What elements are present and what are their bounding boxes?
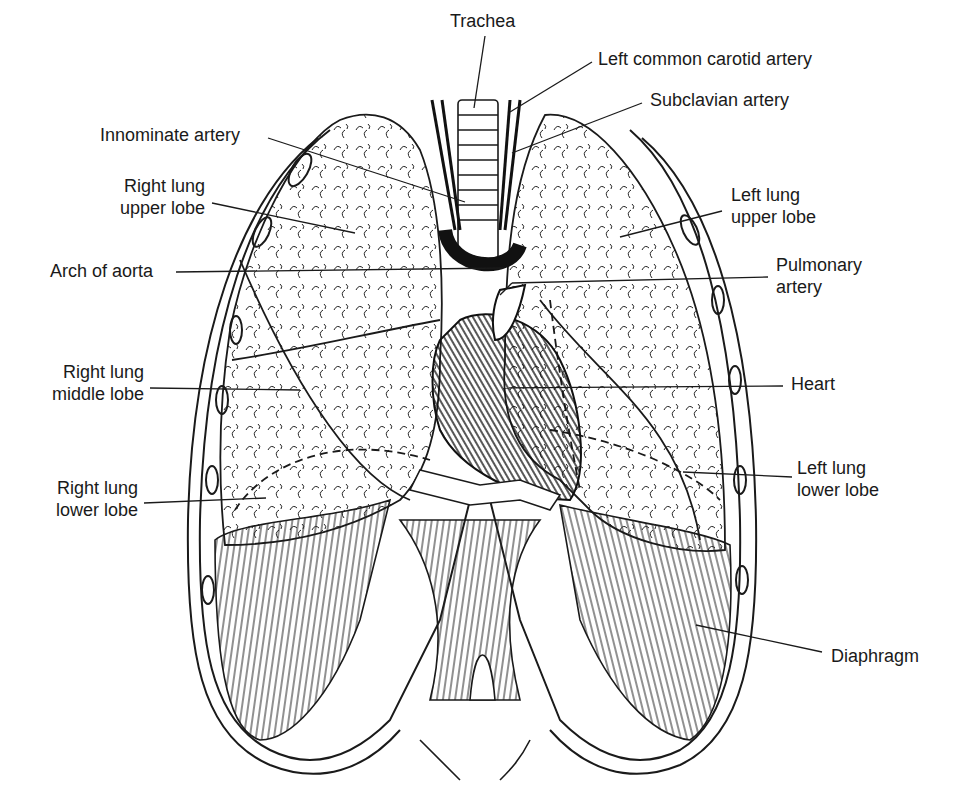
label-left-lung-upper-lobe: Left lung upper lobe (731, 184, 816, 228)
label-pulmonary-artery: Pulmonary artery (776, 254, 862, 298)
label-diaphragm: Diaphragm (831, 645, 919, 667)
label-heart: Heart (791, 373, 835, 395)
label-right-lung-lower-lobe: Right lung lower lobe (42, 477, 138, 521)
trachea-shape (458, 100, 498, 260)
thorax-illustration (0, 0, 970, 805)
label-innominate-artery: Innominate artery (100, 124, 240, 146)
label-right-lung-middle-lobe: Right lung middle lobe (38, 361, 144, 405)
label-right-lung-upper-lobe: Right lung upper lobe (110, 175, 205, 219)
anatomy-diagram: Trachea Left common carotid artery Subcl… (0, 0, 970, 805)
label-arch-of-aorta: Arch of aorta (50, 260, 153, 282)
right-lung-shape (220, 115, 442, 545)
label-subclavian-artery: Subclavian artery (650, 89, 789, 111)
label-trachea: Trachea (450, 10, 515, 32)
label-left-common-carotid-artery: Left common carotid artery (598, 48, 812, 70)
label-left-lung-lower-lobe: Left lung lower lobe (797, 457, 879, 501)
